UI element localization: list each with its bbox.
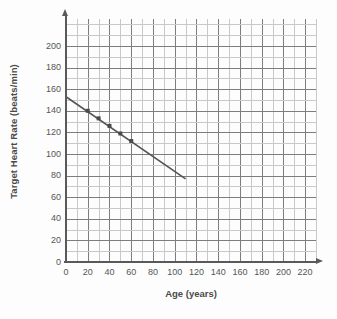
x-tick-label: 220 [290,268,320,277]
y-tick-label: 180 [31,63,61,72]
y-tick-label: 40 [31,214,61,223]
series-line-group [66,97,186,179]
y-tick-label: 160 [31,85,61,94]
gridline-minor-v [316,19,317,262]
y-tick-label: 80 [31,171,61,180]
data-point-marker [97,116,101,120]
y-axis-arrow-icon [62,9,68,16]
y-axis-title-text: Target Heart Rate (beats/min) [8,64,19,199]
y-axis-line [65,14,67,263]
x-axis-title: Age (years) [66,288,316,299]
series-trend-line [66,97,186,179]
x-axis-tick-labels: 020406080100120140160180200220 [66,268,326,282]
y-tick-label: 0 [31,258,61,267]
data-point-marker [118,131,122,135]
y-axis-title: Target Heart Rate (beats/min) [0,0,26,262]
plot-area [66,19,316,262]
y-tick-label: 120 [31,128,61,137]
y-tick-label: 60 [31,193,61,202]
data-point-marker [86,109,90,113]
y-tick-label: 140 [31,106,61,115]
data-point-marker [107,124,111,128]
chart-figure: Target Heart Rate (beats/min) 0204060801… [0,0,337,319]
y-tick-label: 100 [31,150,61,159]
data-point-marker [129,139,133,143]
x-axis-line [64,261,317,263]
y-tick-label: 200 [31,42,61,51]
x-axis-arrow-icon [316,258,323,264]
y-tick-label: 20 [31,236,61,245]
data-series-overlay [66,19,316,262]
